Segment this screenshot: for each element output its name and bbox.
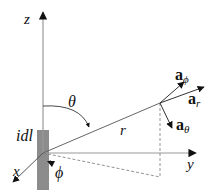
a-phi-sub: ϕ [183, 73, 189, 85]
x-axis-label: x [12, 163, 20, 179]
current-element-label: idl [16, 127, 33, 144]
a-theta-vector [160, 103, 172, 128]
a-r-label: ar [188, 90, 201, 109]
a-phi-label: aϕ [175, 66, 189, 85]
radius-label: r [120, 122, 126, 138]
phi-label: ϕ [55, 164, 63, 182]
a-theta-base: a [176, 116, 184, 133]
z-axis-label: z [23, 11, 30, 27]
a-phi-vector [160, 82, 184, 103]
a-theta-label: aθ [176, 116, 190, 135]
a-theta-sub: θ [184, 123, 190, 135]
theta-label: θ [68, 93, 76, 110]
theta-arc [43, 106, 89, 127]
a-phi-base: a [175, 66, 183, 83]
a-r-base: a [188, 90, 196, 107]
a-r-sub: r [196, 97, 201, 109]
spherical-coordinate-diagram: z y x idl r θ ϕ aϕ ar aθ [0, 0, 215, 193]
radius-line [43, 103, 160, 153]
y-axis-label: y [185, 156, 194, 172]
